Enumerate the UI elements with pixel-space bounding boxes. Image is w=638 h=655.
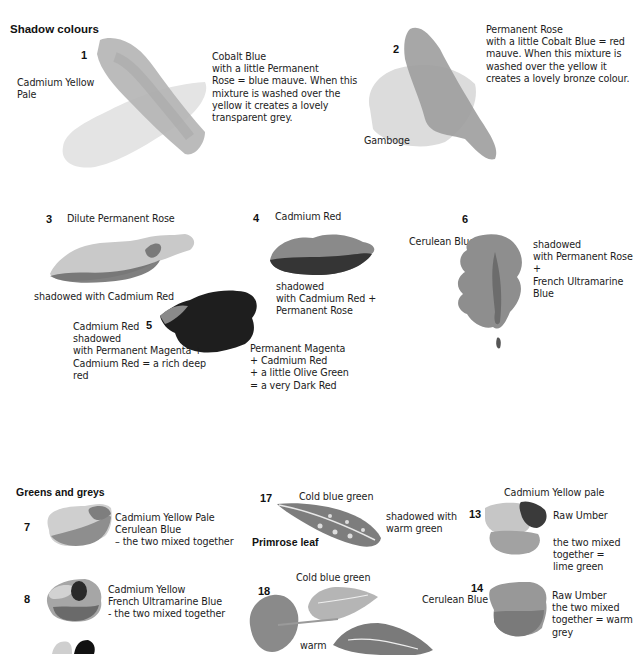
swatch-14-caption: Raw Umber the two mixed together = warm …: [552, 590, 633, 639]
swatch-3-caption: shadowed with Cadmium Red: [34, 291, 174, 303]
swatch-17-leaf-label: Primrose leaf: [252, 536, 319, 548]
swatch-1-caption: Cobalt Blue with a little Permanent Rose…: [212, 51, 357, 124]
swatch-9-paint-icon: [50, 638, 100, 654]
swatch-13-top-label: Cadmium Yellow pale: [504, 487, 604, 499]
swatch-5-left-caption: Cadmium Red shadowed with Permanent Mage…: [73, 321, 206, 382]
swatch-4-caption: shadowed with Cadmium Red + Permanent Ro…: [276, 281, 376, 318]
swatch-7-number: 7: [24, 521, 30, 533]
swatch-2-number: 2: [393, 43, 399, 55]
swatch-5-right-caption: Permanent Magenta + Cadmium Red + a litt…: [250, 343, 349, 392]
swatch-18-bottom-label: warm: [300, 640, 326, 652]
swatch-7-caption: Cadmium Yellow Pale Cerulean Blue – the …: [115, 512, 234, 549]
swatch-4-top-label: Cadmium Red: [275, 211, 341, 223]
swatch-13-side-label: Raw Umber: [553, 510, 608, 522]
swatch-13-caption: the two mixed together = lime green: [553, 537, 620, 574]
swatch-8-number: 8: [24, 593, 30, 605]
swatch-4-number: 4: [253, 212, 259, 224]
swatch-1-number: 1: [81, 49, 87, 61]
swatch-14-base-label: Cerulean Blue: [422, 594, 488, 606]
swatch-4-paint-icon: [268, 230, 378, 278]
section-title-greens-and-greys: Greens and greys: [16, 486, 105, 498]
swatch-7-paint-icon: [45, 502, 113, 550]
swatch-14-number: 14: [471, 582, 483, 594]
swatch-1-paint-icon: [55, 32, 215, 172]
swatch-13-paint-icon: [483, 500, 551, 556]
swatch-18-top-label: Cold blue green: [296, 572, 370, 584]
swatch-17-number: 17: [260, 492, 272, 504]
swatch-6-number: 6: [462, 213, 468, 225]
swatch-2-base-label: Gamboge: [364, 135, 410, 147]
swatch-3-top-label: Dilute Permanent Rose: [67, 213, 175, 225]
swatch-13-number: 13: [469, 508, 481, 520]
swatch-6-paint-icon: [455, 232, 530, 352]
swatch-2-caption: Permanent Rose with a little Cobalt Blue…: [486, 24, 629, 85]
swatch-6-caption: shadowed with Permanent Rose + French Ul…: [533, 239, 638, 300]
swatch-3-number: 3: [46, 213, 52, 225]
swatch-14-paint-icon: [488, 580, 550, 638]
swatch-8-paint-icon: [45, 577, 103, 623]
swatch-17-caption: shadowed with warm green: [386, 511, 457, 535]
swatch-1-base-label: Cadmium Yellow Pale: [17, 77, 94, 101]
swatch-8-caption: Cadmium Yellow French Ultramarine Blue -…: [108, 584, 225, 621]
swatch-18-leaves-icon: [238, 585, 438, 655]
swatch-3-paint-icon: [45, 232, 200, 284]
